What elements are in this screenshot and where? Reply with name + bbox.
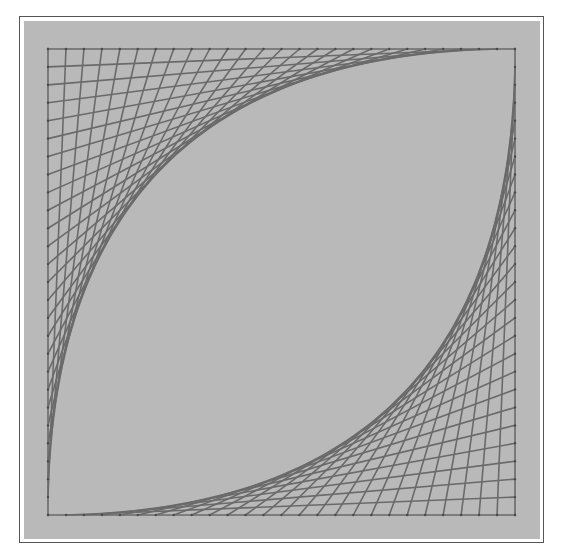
pin-dot <box>47 102 49 104</box>
pin-dot <box>47 66 49 68</box>
string-art-figure <box>0 0 567 555</box>
pin-dot <box>47 352 49 354</box>
pin-dot <box>514 245 516 247</box>
pin-dot <box>47 442 49 444</box>
pin-dot <box>514 281 516 283</box>
pin-dot <box>244 48 246 50</box>
pin-dot <box>514 227 516 229</box>
pin-dot <box>47 335 49 337</box>
pin-dot <box>424 514 426 516</box>
pin-dot <box>514 514 516 516</box>
pin-dot <box>226 48 228 50</box>
pin-dot <box>442 48 444 50</box>
pin-dot <box>280 514 282 516</box>
pin-dot <box>119 48 121 50</box>
pin-dot <box>496 48 498 50</box>
pin-dot <box>262 514 264 516</box>
pin-dot <box>280 48 282 50</box>
pin-dot <box>406 48 408 50</box>
pin-dot <box>514 48 516 50</box>
pin-dot <box>298 48 300 50</box>
pin-dot <box>101 48 103 50</box>
pin-dots <box>47 48 516 516</box>
pin-dot <box>514 370 516 372</box>
pin-dot <box>190 48 192 50</box>
pin-dot <box>406 514 408 516</box>
pin-dot <box>47 388 49 390</box>
pin-dot <box>208 48 210 50</box>
thread-line <box>66 497 515 515</box>
pin-dot <box>514 84 516 86</box>
pin-dot <box>514 406 516 408</box>
pin-dot <box>226 514 228 516</box>
pin-dot <box>514 173 516 175</box>
pin-dot <box>47 209 49 211</box>
pin-dot <box>173 48 175 50</box>
pin-dot <box>388 48 390 50</box>
pin-dot <box>47 191 49 193</box>
pin-dot <box>514 424 516 426</box>
thread-lines <box>48 49 515 515</box>
pin-dot <box>119 514 121 516</box>
pin-dot <box>65 514 67 516</box>
pin-dot <box>478 48 480 50</box>
pin-dot <box>47 424 49 426</box>
pin-dot <box>478 514 480 516</box>
pin-dot <box>47 281 49 283</box>
pin-dot <box>514 478 516 480</box>
pin-dot <box>496 514 498 516</box>
pin-dot <box>514 317 516 319</box>
pin-dot <box>65 48 67 50</box>
pin-dot <box>190 514 192 516</box>
pin-dot <box>47 478 49 480</box>
pin-dot <box>370 48 372 50</box>
pin-dot <box>47 119 49 121</box>
pin-dot <box>47 48 49 50</box>
pin-dot <box>47 370 49 372</box>
pin-dot <box>262 48 264 50</box>
pin-dot <box>298 514 300 516</box>
pin-dot <box>352 48 354 50</box>
pin-dot <box>514 335 516 337</box>
pin-dot <box>316 48 318 50</box>
pin-dot <box>514 388 516 390</box>
pin-dot <box>47 460 49 462</box>
pin-dot <box>334 48 336 50</box>
pin-dot <box>155 514 157 516</box>
pin-dot <box>47 496 49 498</box>
pin-dot <box>370 514 372 516</box>
pin-dot <box>47 173 49 175</box>
pin-dot <box>514 66 516 68</box>
pin-dot <box>137 48 139 50</box>
pin-dot <box>442 514 444 516</box>
pin-dot <box>47 227 49 229</box>
pin-dot <box>514 263 516 265</box>
pin-dot <box>47 155 49 157</box>
pin-dot <box>47 299 49 301</box>
pin-dot <box>47 137 49 139</box>
pin-dot <box>47 84 49 86</box>
pin-dot <box>137 514 139 516</box>
pin-dot <box>514 496 516 498</box>
pin-dot <box>47 514 49 516</box>
pin-dot <box>514 191 516 193</box>
pin-dot <box>47 245 49 247</box>
pin-dot <box>388 514 390 516</box>
pin-dot <box>514 209 516 211</box>
pin-dot <box>316 514 318 516</box>
pin-dot <box>514 102 516 104</box>
pin-dot <box>514 460 516 462</box>
pin-dot <box>101 514 103 516</box>
thread-line <box>48 49 497 67</box>
pin-dot <box>460 514 462 516</box>
pin-dot <box>514 442 516 444</box>
pin-dot <box>155 48 157 50</box>
pin-dot <box>460 48 462 50</box>
pin-dot <box>514 299 516 301</box>
pin-dot <box>334 514 336 516</box>
pin-dot <box>83 48 85 50</box>
pin-dot <box>514 137 516 139</box>
pin-dot <box>352 514 354 516</box>
pin-dot <box>47 263 49 265</box>
pin-dot <box>424 48 426 50</box>
